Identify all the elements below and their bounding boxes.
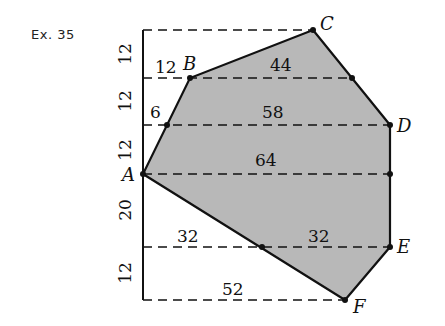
vertex-a-label: A	[120, 164, 135, 185]
height-label-2: 12	[115, 90, 135, 112]
height-label-1: 12	[115, 43, 135, 65]
vertex-b-label: B	[182, 53, 196, 74]
height-label-3: 12	[115, 139, 135, 161]
vertex-c-label: C	[320, 13, 334, 34]
polygon-diagram: C B D A E F 12 12 12 20 12 12 44 6 58 64…	[0, 0, 445, 326]
height-label-5: 12	[115, 262, 135, 284]
width-label-52: 52	[222, 279, 244, 299]
vertex-e-label: E	[396, 236, 410, 257]
width-label-44: 44	[270, 55, 292, 75]
width-label-32-left: 32	[177, 226, 199, 246]
width-label-32-right: 32	[308, 226, 330, 246]
width-label-58: 58	[262, 102, 284, 122]
width-label-6: 6	[150, 102, 161, 122]
vertex-f-label: F	[352, 296, 367, 317]
width-label-12: 12	[155, 57, 177, 77]
width-label-64: 64	[255, 150, 277, 170]
vertex-d-label: D	[396, 115, 412, 136]
height-label-4: 20	[115, 199, 135, 221]
